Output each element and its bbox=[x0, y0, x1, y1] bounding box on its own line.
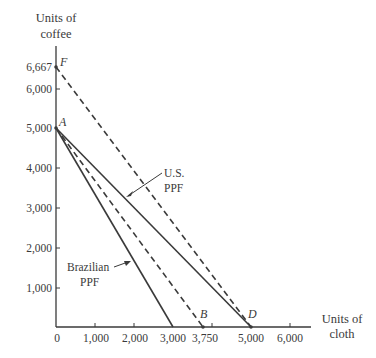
y-tick-label: 6,000 bbox=[26, 83, 52, 96]
y-tick-label: 1,000 bbox=[26, 282, 52, 295]
brazilian-ppf-label: PPF bbox=[80, 276, 99, 288]
x-tick-label: 0 bbox=[54, 332, 60, 344]
y-tick-label: 2,000 bbox=[26, 242, 52, 255]
y-tick-label: 6,667 bbox=[26, 61, 52, 74]
y-axis-title: coffee bbox=[41, 27, 72, 41]
brazil-ppf-line bbox=[56, 128, 173, 327]
point-label-a: A bbox=[58, 115, 67, 129]
point-label-f: F bbox=[59, 55, 68, 69]
point-b bbox=[201, 325, 205, 329]
us-ppf-arrowhead-icon bbox=[126, 191, 133, 197]
us-ppf-line bbox=[56, 128, 251, 327]
ppf-chart: 6,667 6,000 5,000 4,000 3,000 2,000 1,00… bbox=[0, 0, 376, 358]
y-tick-label: 3,000 bbox=[26, 202, 52, 215]
x-tick-label: 5,000 bbox=[238, 332, 264, 345]
point-label-d: D bbox=[247, 307, 257, 321]
x-tick-label: 6,000 bbox=[277, 332, 303, 345]
us-ppf-label: U.S. bbox=[164, 167, 185, 179]
us-ppf-label: PPF bbox=[164, 182, 183, 194]
x-axis-title: Units of bbox=[322, 312, 363, 326]
brazilian-ppf-arrowhead-icon bbox=[124, 261, 131, 266]
y-axis-title: Units of bbox=[36, 11, 77, 25]
point-label-b: B bbox=[200, 307, 208, 321]
y-tick-label: 5,000 bbox=[26, 122, 52, 135]
x-tick-label: 3,000 bbox=[160, 332, 186, 345]
x-axis-title: cloth bbox=[330, 327, 356, 341]
x-tick-label: 1,000 bbox=[83, 332, 109, 345]
us-trade-line bbox=[56, 67, 251, 327]
point-d bbox=[249, 325, 253, 329]
x-tick-label: 2,000 bbox=[122, 332, 148, 345]
point-f bbox=[54, 65, 58, 69]
brazilian-ppf-label: Brazilian bbox=[67, 261, 109, 273]
point-a bbox=[54, 126, 58, 130]
y-tick-label: 4,000 bbox=[26, 162, 52, 175]
us-ppf-arrow bbox=[128, 173, 162, 196]
brazil-trade-line bbox=[56, 128, 203, 327]
x-tick-label: 3,750 bbox=[192, 332, 218, 345]
